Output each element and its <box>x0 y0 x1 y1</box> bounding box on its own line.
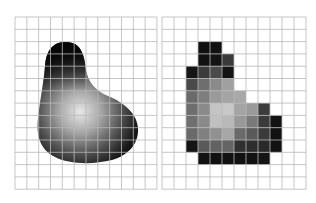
pixel-cell <box>246 140 258 152</box>
pixel-cell <box>222 140 234 152</box>
pixel-grid-figure <box>158 0 316 203</box>
pixel-cell <box>186 66 198 78</box>
pixel-cell <box>258 115 270 127</box>
pixel-cell <box>222 79 234 91</box>
pixel-cell <box>210 42 222 54</box>
pixel-cell <box>198 79 210 91</box>
pixel-cell <box>198 103 210 115</box>
pixel-cell <box>246 128 258 140</box>
pixel-cell <box>246 103 258 115</box>
pixel-cell <box>258 152 270 164</box>
pixel-cell <box>234 91 246 103</box>
pixel-cell <box>222 54 234 66</box>
pixel-cell <box>210 91 222 103</box>
pixel-cell <box>198 115 210 127</box>
pixel-cell <box>210 54 222 66</box>
pixel-cell <box>222 115 234 127</box>
pixel-cell <box>198 54 210 66</box>
pixel-cell <box>258 128 270 140</box>
pixel-cell <box>222 128 234 140</box>
pixel-cell <box>234 140 246 152</box>
pixel-cell <box>222 66 234 78</box>
grid-lines <box>162 17 306 189</box>
pixel-cell <box>210 66 222 78</box>
pixel-cell <box>210 128 222 140</box>
pixel-cell <box>222 152 234 164</box>
pixel-cell <box>246 115 258 127</box>
pixel-cell <box>270 115 282 127</box>
pixel-cell <box>198 152 210 164</box>
pixel-cell <box>210 103 222 115</box>
sampled-image-panel <box>158 0 316 203</box>
pixel-cell <box>270 140 282 152</box>
continuous-blob-figure <box>0 0 158 203</box>
pixel-cell <box>258 103 270 115</box>
pixel-cell <box>234 103 246 115</box>
pixel-cell <box>222 103 234 115</box>
pixel-cell <box>186 79 198 91</box>
pixel-cell <box>222 91 234 103</box>
blob-top-shadow <box>43 42 88 92</box>
pixel-cell <box>198 42 210 54</box>
pixel-cell <box>198 66 210 78</box>
pixel-cell <box>210 79 222 91</box>
pixel-cell <box>198 128 210 140</box>
pixel-cell <box>210 115 222 127</box>
pixel-cell <box>198 140 210 152</box>
pixel-cell <box>270 128 282 140</box>
pixel-cell <box>258 140 270 152</box>
pixel-cell <box>186 140 198 152</box>
pixel-cell <box>234 152 246 164</box>
pixel-cell <box>210 140 222 152</box>
pixel-cell <box>186 91 198 103</box>
pixel-cell <box>186 103 198 115</box>
pixel-cell <box>198 91 210 103</box>
pixel-cell <box>246 152 258 164</box>
pixel-cell <box>186 115 198 127</box>
pixel-cell <box>186 128 198 140</box>
continuous-image-panel <box>0 0 158 203</box>
grid-lines <box>15 17 157 189</box>
pixel-cell <box>234 128 246 140</box>
pixel-cell <box>234 115 246 127</box>
pixel-cell <box>210 152 222 164</box>
